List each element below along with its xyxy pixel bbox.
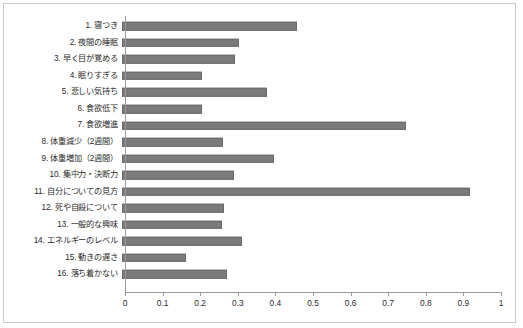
bar-row: 9. 体重増加（2週間） bbox=[4, 150, 515, 167]
bar-category-label: 12. 死や自殺について bbox=[4, 204, 122, 212]
bar-track bbox=[122, 200, 515, 217]
bar-category-label: 2. 夜間の睡眠 bbox=[4, 39, 122, 47]
bar-row: 7. 食欲増進 bbox=[4, 117, 515, 134]
bar-row: 3. 早く目が覚める bbox=[4, 51, 515, 68]
bar-track bbox=[122, 150, 515, 167]
bar-category-label: 1. 寝つき bbox=[4, 22, 122, 30]
bar bbox=[122, 270, 227, 279]
bar-row: 11. 自分についての見方 bbox=[4, 183, 515, 200]
x-axis-tick bbox=[426, 292, 427, 296]
bar bbox=[122, 72, 202, 81]
bar bbox=[122, 39, 239, 48]
x-axis-tick bbox=[238, 292, 239, 296]
bar-track bbox=[122, 183, 515, 200]
bar-category-label: 16. 落ち着かない bbox=[4, 270, 122, 278]
bar-track bbox=[122, 35, 515, 52]
bar-track bbox=[122, 18, 515, 35]
x-axis-tick-label: 0.9 bbox=[458, 298, 470, 308]
bar bbox=[122, 138, 223, 147]
bar-track bbox=[122, 250, 515, 267]
bar-row: 1. 寝つき bbox=[4, 18, 515, 35]
bar-category-label: 10. 集中力・決断力 bbox=[4, 171, 122, 179]
bar-row: 10. 集中力・決断力 bbox=[4, 167, 515, 184]
x-axis-tick-label: 0.7 bbox=[382, 298, 394, 308]
bar-row: 6. 食欲低下 bbox=[4, 101, 515, 118]
bar-rows: 1. 寝つき2. 夜間の睡眠3. 早く目が覚める4. 眠りすぎる5. 悲しい気持… bbox=[4, 18, 515, 283]
bar-category-label: 8. 体重減少（2週間） bbox=[4, 138, 122, 146]
bar bbox=[122, 22, 297, 31]
x-axis-tick bbox=[163, 292, 164, 296]
bar-row: 8. 体重減少（2週間） bbox=[4, 134, 515, 151]
x-axis-tick-label: 0.6 bbox=[345, 298, 357, 308]
bar-category-label: 11. 自分についての見方 bbox=[4, 188, 122, 196]
bar-row: 2. 夜間の睡眠 bbox=[4, 35, 515, 52]
bar bbox=[122, 88, 267, 97]
x-axis-tick-label: 0.1 bbox=[157, 298, 169, 308]
bar-row: 14. エネルギーのレベル bbox=[4, 233, 515, 250]
x-axis-tick bbox=[463, 292, 464, 296]
bar-row: 12. 死や自殺について bbox=[4, 200, 515, 217]
bar bbox=[122, 221, 222, 230]
bar-category-label: 15. 動きの遅さ bbox=[4, 254, 122, 262]
x-axis-tick bbox=[275, 292, 276, 296]
bar-row: 4. 眠りすぎる bbox=[4, 68, 515, 85]
bar-track bbox=[122, 217, 515, 234]
bar bbox=[122, 55, 235, 64]
bar-category-label: 5. 悲しい気持ち bbox=[4, 88, 122, 96]
bar-track bbox=[122, 51, 515, 68]
bar-chart-plot: 1. 寝つき2. 夜間の睡眠3. 早く目が覚める4. 眠りすぎる5. 悲しい気持… bbox=[4, 4, 515, 322]
bar-track bbox=[122, 134, 515, 151]
bar-category-label: 14. エネルギーのレベル bbox=[4, 237, 122, 245]
bar-track bbox=[122, 101, 515, 118]
bar bbox=[122, 187, 470, 196]
x-axis-tick bbox=[125, 292, 126, 296]
x-axis-tick-label: 0.2 bbox=[194, 298, 206, 308]
y-axis-line bbox=[125, 16, 126, 293]
bar-track bbox=[122, 84, 515, 101]
x-axis-tick-label: 0.5 bbox=[307, 298, 319, 308]
bar-track bbox=[122, 266, 515, 283]
x-axis-tick-label: 0.4 bbox=[270, 298, 282, 308]
x-axis-tick bbox=[501, 292, 502, 296]
bar-row: 16. 落ち着かない bbox=[4, 266, 515, 283]
x-axis-tick-label: 0 bbox=[123, 298, 128, 308]
bar-category-label: 13. 一般的な興味 bbox=[4, 221, 122, 229]
x-axis-tick bbox=[313, 292, 314, 296]
bar-row: 13. 一般的な興味 bbox=[4, 217, 515, 234]
bar-row: 5. 悲しい気持ち bbox=[4, 84, 515, 101]
bar-track bbox=[122, 233, 515, 250]
chart-frame: 1. 寝つき2. 夜間の睡眠3. 早く目が覚める4. 眠りすぎる5. 悲しい気持… bbox=[3, 3, 516, 323]
bar bbox=[122, 121, 406, 130]
x-axis-tick bbox=[351, 292, 352, 296]
bar-category-label: 6. 食欲低下 bbox=[4, 105, 122, 113]
bar-track bbox=[122, 117, 515, 134]
x-axis-tick-label: 1 bbox=[499, 298, 504, 308]
bar-category-label: 4. 眠りすぎる bbox=[4, 72, 122, 80]
bar-track bbox=[122, 68, 515, 85]
bar bbox=[122, 254, 186, 263]
bar-row: 15. 動きの遅さ bbox=[4, 250, 515, 267]
bar bbox=[122, 171, 234, 180]
bar bbox=[122, 105, 202, 114]
x-axis-tick bbox=[200, 292, 201, 296]
x-axis-tick-label: 0.8 bbox=[420, 298, 432, 308]
bar-category-label: 9. 体重増加（2週間） bbox=[4, 155, 122, 163]
bar-track bbox=[122, 167, 515, 184]
x-axis-tick bbox=[388, 292, 389, 296]
bar bbox=[122, 237, 242, 246]
bar bbox=[122, 204, 224, 213]
bar bbox=[122, 154, 274, 163]
bar-category-label: 3. 早く目が覚める bbox=[4, 55, 122, 63]
bar-category-label: 7. 食欲増進 bbox=[4, 121, 122, 129]
x-axis-tick-label: 0.3 bbox=[232, 298, 244, 308]
